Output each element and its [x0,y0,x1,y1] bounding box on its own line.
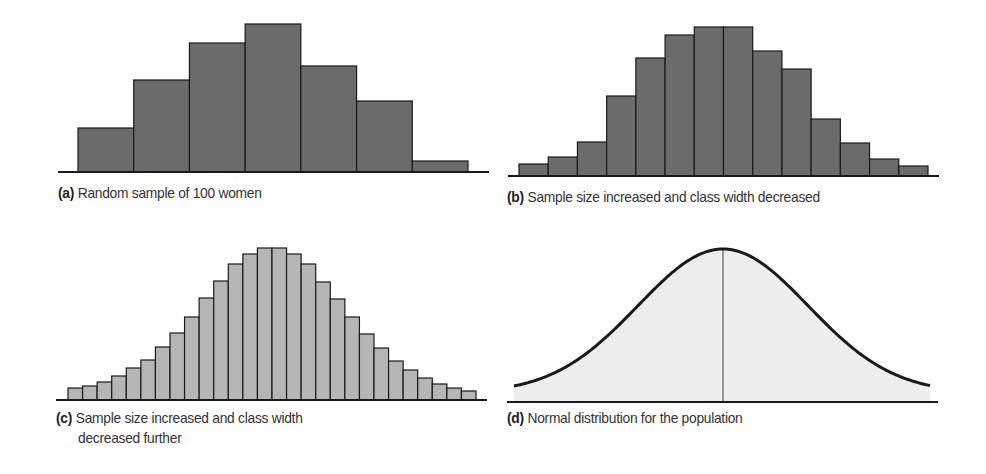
histogram-bar [214,281,229,400]
histogram-bar [359,334,374,400]
histogram-bar [141,360,156,400]
histogram-bar [134,80,190,172]
caption-c-label: (c) [56,409,72,426]
curve-area-fill [514,249,930,402]
panel-d-normal-curve [507,249,938,402]
histogram-bar [357,101,413,172]
histogram-bar [389,361,404,400]
histogram-bar [665,35,694,176]
histogram-bar [272,248,287,400]
caption-d-text: Normal distribution for the population [527,409,742,426]
panel-c-histogram [56,248,487,400]
caption-b-text: Sample size increased and class width de… [527,188,819,205]
histogram-bar [301,264,316,400]
histogram-bar [68,388,83,400]
caption-d-label: (d) [507,409,524,426]
histogram-bar [636,58,665,176]
histogram-bar [257,248,272,400]
histogram-bar [840,143,869,176]
histogram-bar [228,264,243,400]
histogram-bar [548,157,577,176]
histogram-bar [301,66,357,172]
histogram-bar [418,378,433,400]
histogram-bar [345,317,360,400]
histogram-bar [170,333,185,400]
caption-d: (d)Normal distribution for the populatio… [507,408,743,427]
histogram-bar [189,43,245,172]
histogram-bar [316,282,331,400]
histogram-bar [519,164,548,176]
histogram-bar [694,27,723,176]
panel-a-histogram [58,24,489,172]
histogram-bar [403,370,418,400]
histogram-bar [753,51,782,176]
histogram-bar [607,96,636,176]
histogram-bar [870,159,899,176]
histogram-bar [782,69,811,176]
histogram-bar [112,376,127,400]
caption-b: (b)Sample size increased and class width… [507,187,820,206]
histogram-bar [126,368,141,400]
histogram-bar [78,128,134,172]
figure: (a)Random sample of 100 women (b)Sample … [0,0,986,474]
caption-c-text-line2: decreased further [78,429,181,446]
caption-a: (a)Random sample of 100 women [58,183,262,202]
histogram-bar [724,27,753,176]
histogram-bar [245,24,301,172]
histogram-bar [97,382,112,400]
caption-a-label: (a) [58,184,74,201]
histogram-bar [83,386,98,400]
histogram-bar [330,299,345,400]
histogram-bar [811,119,840,176]
caption-b-label: (b) [507,188,524,205]
histogram-bar [447,388,462,400]
caption-c-text: Sample size increased and class width [76,409,303,426]
histogram-figure [0,0,986,474]
histogram-bar [243,254,258,400]
panel-b-histogram [508,27,939,176]
caption-c: (c)Sample size increased and class width [56,408,303,427]
histogram-bar [432,384,447,400]
histogram-bar [412,161,468,172]
caption-c-line2: decreased further [78,428,181,447]
histogram-bar [577,142,606,176]
histogram-bar [155,347,170,400]
histogram-bar [461,391,476,400]
histogram-bar [287,254,302,400]
histogram-bar [199,298,214,400]
histogram-bar [185,317,200,400]
histogram-bar [374,348,389,400]
caption-a-text: Random sample of 100 women [78,184,262,201]
histogram-bar [899,166,928,176]
